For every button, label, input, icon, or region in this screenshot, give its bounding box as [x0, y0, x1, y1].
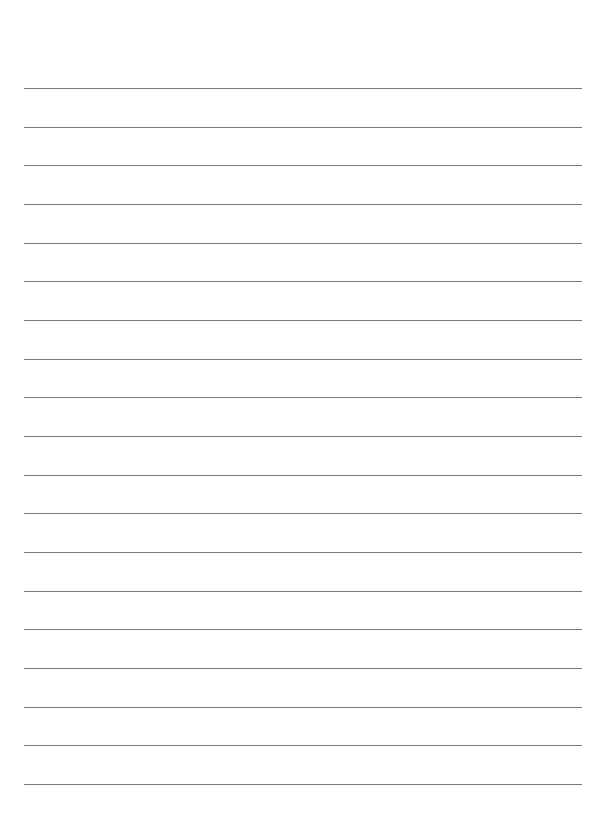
ruled-line	[24, 127, 582, 128]
ruled-line	[24, 591, 582, 592]
ruled-line	[24, 668, 582, 669]
ruled-line	[24, 784, 582, 785]
ruled-line	[24, 88, 582, 89]
ruled-line	[24, 243, 582, 244]
ruled-line	[24, 552, 582, 553]
ruled-line	[24, 165, 582, 166]
ruled-line	[24, 745, 582, 746]
ruled-line	[24, 513, 582, 514]
ruled-line	[24, 475, 582, 476]
ruled-line	[24, 359, 582, 360]
ruled-line	[24, 436, 582, 437]
ruled-line	[24, 397, 582, 398]
ruled-line	[24, 204, 582, 205]
lined-paper-page	[0, 0, 607, 836]
ruled-line	[24, 320, 582, 321]
ruled-line	[24, 629, 582, 630]
ruled-line	[24, 707, 582, 708]
ruled-line	[24, 281, 582, 282]
